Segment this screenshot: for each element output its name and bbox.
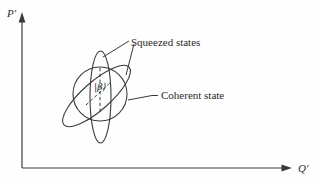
y-axis-arrowhead [19,12,26,23]
squeezed-states-label: Squeezed states [131,36,200,48]
beta-ket-label: |β⟩ [94,81,106,93]
y-axis-label: P′ [6,7,17,19]
x-axis-label: Q′ [298,162,309,174]
x-axis-arrowhead [282,165,293,172]
phase-space-diagram: P′ Q′ Squeezed states Coherent state |β⟩ [0,0,318,187]
phase-space-figure: P′ Q′ Squeezed states Coherent state |β⟩ [0,0,318,187]
coherent-state-label: Coherent state [161,89,224,101]
leader-line-coherent [128,96,158,101]
leader-line-squeezed-vertical [103,41,129,57]
